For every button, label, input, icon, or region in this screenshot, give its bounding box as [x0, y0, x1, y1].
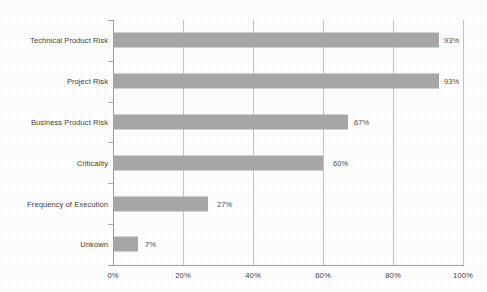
category-label-unkown: Unkown [2, 240, 108, 249]
category-label-frequency-of-execution: Frequency of Execution [2, 199, 108, 208]
category-axis-tick [108, 142, 113, 143]
category-axis-tick [108, 102, 113, 103]
plot-area: 93% 93% 67% 60% 27% 7% [113, 20, 463, 265]
bar-frequency-of-execution[interactable] [113, 196, 208, 211]
bar-row: 7% [113, 224, 463, 265]
category-axis-tick [108, 61, 113, 62]
category-axis-tick [108, 20, 113, 21]
bar-value-business-product-risk: 67% [354, 117, 369, 126]
xtick-label-60: 60% [315, 271, 331, 280]
category-label-project-risk: Project Risk [2, 77, 108, 86]
category-axis-tick [108, 183, 113, 184]
bar-unkown[interactable] [113, 237, 138, 252]
category-label-criticality: Criticality [2, 158, 108, 167]
value-axis-line [113, 265, 464, 266]
category-axis-tick [108, 224, 113, 225]
bar-value-project-risk: 93% [444, 77, 459, 86]
bar-value-criticality: 60% [333, 158, 348, 167]
xtick-label-80: 80% [385, 271, 401, 280]
bar-business-product-risk[interactable] [113, 114, 348, 129]
bar-row: 67% [113, 102, 463, 143]
bar-chart: 93% 93% 67% 60% 27% 7% Technical Pro [0, 0, 487, 292]
bar-row: 27% [113, 183, 463, 224]
xtick-label-100: 100% [453, 271, 473, 280]
bar-project-risk[interactable] [113, 74, 439, 89]
bar-row: 60% [113, 142, 463, 183]
bar-criticality[interactable] [113, 155, 323, 170]
bar-value-technical-product-risk: 93% [444, 36, 459, 45]
category-label-business-product-risk: Business Product Risk [2, 118, 108, 127]
bar-value-frequency-of-execution: 27% [217, 199, 232, 208]
bar-row: 93% [113, 20, 463, 61]
gridline-100 [463, 20, 464, 265]
xtick-label-20: 20% [175, 271, 191, 280]
bar-value-unkown: 7% [145, 240, 156, 249]
category-label-technical-product-risk: Technical Product Risk [2, 36, 108, 45]
xtick-label-0: 0% [107, 271, 118, 280]
bar-row: 93% [113, 61, 463, 102]
xtick-label-40: 40% [245, 271, 261, 280]
bar-technical-product-risk[interactable] [113, 33, 439, 48]
category-axis-labels: Technical Product Risk Project Risk Busi… [0, 20, 108, 265]
